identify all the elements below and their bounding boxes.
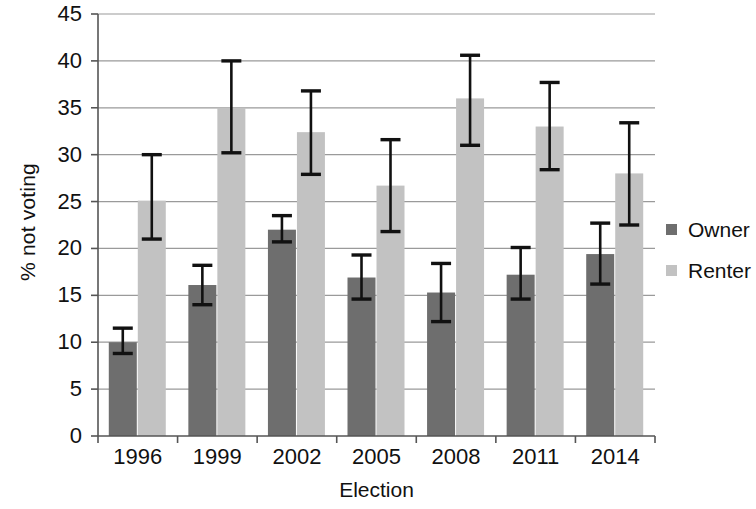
bar-renter-2011 bbox=[536, 127, 564, 436]
legend-swatch-icon bbox=[666, 265, 677, 276]
legend-label: Owner bbox=[688, 219, 750, 240]
bar-owner-2005 bbox=[348, 278, 376, 436]
bar-renter-2002 bbox=[297, 132, 325, 436]
bar-renter-1999 bbox=[217, 108, 245, 436]
plot-area bbox=[0, 0, 756, 509]
legend-swatch-icon bbox=[666, 224, 677, 235]
bar-renter-2008 bbox=[456, 98, 484, 436]
bar-owner-2002 bbox=[268, 230, 296, 436]
bar-owner-1999 bbox=[188, 285, 216, 436]
legend-item-owner[interactable]: Owner bbox=[666, 219, 750, 240]
legend-item-renter[interactable]: Renter bbox=[666, 260, 751, 281]
chart-container: % not voting Election 051015202530354045… bbox=[0, 0, 756, 509]
bar-owner-1996 bbox=[109, 342, 137, 436]
legend-label: Renter bbox=[688, 260, 751, 281]
